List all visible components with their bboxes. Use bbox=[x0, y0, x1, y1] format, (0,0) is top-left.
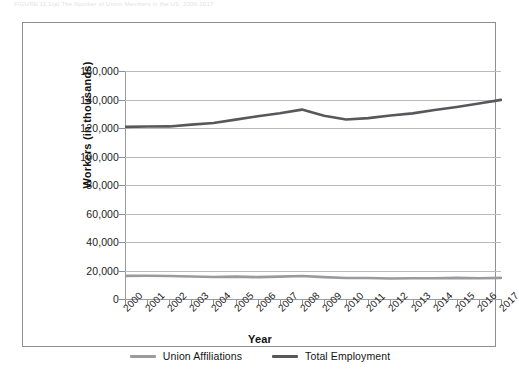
figure-frame: Workers (in thousands) 020,00040,00060,0… bbox=[22, 22, 496, 347]
y-axis-tick-mark bbox=[119, 271, 125, 272]
y-axis-tick-mark bbox=[119, 71, 125, 72]
y-axis-tick-label: 40,000 bbox=[57, 236, 119, 248]
y-axis-tick-mark bbox=[119, 185, 125, 186]
y-axis-tick-mark bbox=[119, 128, 125, 129]
series-line bbox=[125, 100, 501, 127]
y-axis-tick-mark bbox=[119, 157, 125, 158]
y-axis-tick-label: 20,000 bbox=[57, 265, 119, 277]
chart-screenshot: FIGURE 11.1(a) The Number of Union Membe… bbox=[0, 0, 519, 370]
y-axis-tick-mark bbox=[119, 214, 125, 215]
y-axis-tick-label: 100,000 bbox=[57, 151, 119, 163]
y-axis-tick-label: 160,000 bbox=[57, 65, 119, 77]
series-line bbox=[125, 276, 501, 279]
series-layer bbox=[125, 71, 502, 300]
y-axis-tick-label: 80,000 bbox=[57, 179, 119, 191]
legend-item[interactable]: Union Affiliations bbox=[130, 350, 242, 362]
y-axis-tick-label: 60,000 bbox=[57, 208, 119, 220]
legend-swatch-icon bbox=[130, 355, 156, 358]
y-axis-ticks: 020,00040,00060,00080,000100,000120,0001… bbox=[53, 23, 119, 348]
y-axis-tick-label: 120,000 bbox=[57, 122, 119, 134]
legend-item[interactable]: Total Employment bbox=[272, 350, 390, 362]
y-axis-tick-mark bbox=[119, 100, 125, 101]
y-axis-tick-label: 0 bbox=[57, 293, 119, 305]
legend-swatch-icon bbox=[272, 355, 298, 358]
legend-label: Union Affiliations bbox=[163, 350, 242, 362]
y-axis-tick-mark bbox=[119, 242, 125, 243]
figure-caption: FIGURE 11.1(a) The Number of Union Membe… bbox=[14, 0, 414, 9]
legend-label: Total Employment bbox=[305, 350, 390, 362]
x-axis-title: Year bbox=[23, 333, 497, 345]
y-axis-tick-label: 140,000 bbox=[57, 94, 119, 106]
chart-legend: Union AffiliationsTotal Employment bbox=[23, 350, 497, 362]
